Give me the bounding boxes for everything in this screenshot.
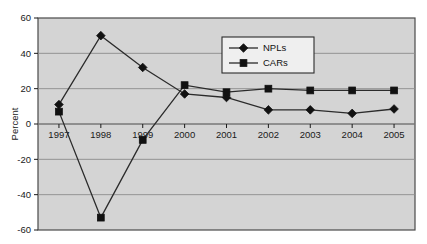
data-point-square	[265, 85, 272, 92]
x-tick-label: 1998	[90, 129, 111, 140]
y-tick-label: -60	[17, 224, 31, 235]
legend: NPLsCARs	[222, 37, 314, 73]
x-tick-label: 2002	[258, 129, 279, 140]
x-tick-label: 2003	[300, 129, 321, 140]
x-tick-label: 2005	[383, 129, 404, 140]
legend-label-npls: NPLs	[263, 42, 286, 53]
x-tick-label: 2004	[342, 129, 363, 140]
y-tick-label: 0	[26, 118, 31, 129]
x-axis-tick-labels: 199719981999200020012002200320042005	[48, 129, 404, 140]
y-tick-label: 60	[20, 12, 31, 23]
data-point-square	[223, 89, 230, 96]
y-axis-title: Percent	[9, 107, 20, 140]
data-point-square	[391, 87, 398, 94]
data-point-square	[307, 87, 314, 94]
y-tick-label: -40	[17, 189, 31, 200]
line-chart: 6040200-20-40-60 19971998199920002001200…	[0, 0, 427, 244]
y-tick-label: -20	[17, 154, 31, 165]
x-tick-label: 2000	[174, 129, 195, 140]
x-tick-label: 2001	[216, 129, 237, 140]
data-point-square	[56, 108, 63, 115]
y-tick-label: 40	[20, 48, 31, 59]
legend-label-cars: CARs	[263, 57, 288, 68]
data-point-square	[97, 214, 104, 221]
data-point-square	[181, 82, 188, 89]
chart-container: 6040200-20-40-60 19971998199920002001200…	[0, 0, 427, 244]
data-point-square	[240, 60, 247, 67]
data-point-square	[349, 87, 356, 94]
data-point-square	[139, 137, 146, 144]
y-tick-label: 20	[20, 83, 31, 94]
